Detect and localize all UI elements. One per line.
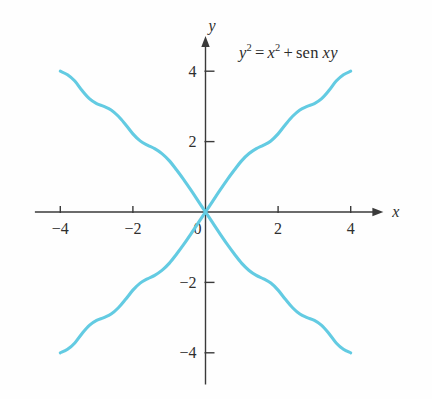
- y-tick-label-2: 2: [189, 133, 197, 150]
- equation-function-args: xy: [319, 43, 338, 62]
- y-axis-arrowhead-icon: [201, 36, 209, 47]
- x-axis-label: x: [391, 203, 399, 220]
- equation-rhs-base: x: [268, 43, 276, 62]
- plot-svg: −4−22442−2−40 x y: [0, 0, 432, 399]
- y-tick-label--4: −4: [179, 344, 196, 361]
- equation-function-name: sen: [296, 43, 319, 62]
- figure-container: −4−22442−2−40 x y y2=x2+senxy: [0, 0, 432, 399]
- x-axis-arrowhead-icon: [372, 208, 383, 216]
- x-tick-label--2: −2: [124, 220, 141, 237]
- equation-equals-sign: =: [252, 43, 268, 62]
- y-axis-label: y: [207, 17, 217, 35]
- equation-annotation: y2=x2+senxy: [239, 42, 338, 63]
- x-tick-label--4: −4: [52, 220, 69, 237]
- equation-plus-sign: +: [280, 43, 296, 62]
- y-tick-label--2: −2: [179, 274, 196, 291]
- x-tick-label-4: 4: [347, 220, 355, 237]
- x-tick-label-2: 2: [274, 220, 282, 237]
- y-tick-label-4: 4: [189, 63, 197, 80]
- equation-lhs-base: y: [239, 43, 247, 62]
